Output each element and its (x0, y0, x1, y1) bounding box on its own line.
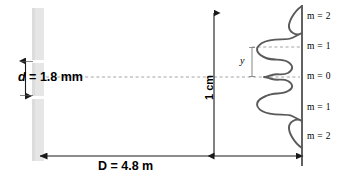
order-label-m2-upper: m = 2 (307, 12, 331, 22)
slit-separation-label: d = 1.8 mm (18, 71, 83, 84)
fringe-offset-marker (249, 47, 255, 77)
screen-distance-label: D = 4.8 m (98, 160, 153, 173)
slit-separation-symbol: d (18, 70, 26, 84)
order-label-m0: m = 0 (307, 72, 331, 82)
diagram-canvas (0, 0, 345, 179)
order-label-m2-lower: m = 2 (307, 132, 331, 142)
vertical-scale-label: 1 cm (204, 75, 215, 100)
interference-diagram: d = 1.8 mm D = 4.8 m 1 cm y m = 2 m = 1 … (0, 0, 345, 179)
fringe-offset-label: y (240, 56, 244, 66)
order-label-m1-lower: m = 1 (307, 103, 331, 113)
slit-separation-value: = 1.8 mm (26, 70, 83, 84)
slit-barrier (32, 8, 44, 161)
order-label-m1-upper: m = 1 (307, 42, 331, 52)
